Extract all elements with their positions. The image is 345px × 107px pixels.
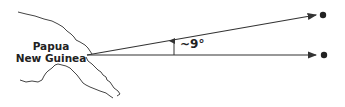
lower-target-dot (321, 52, 327, 58)
upper-target-dot (320, 12, 326, 18)
region-label: Papua New Guinea (12, 40, 90, 64)
region-label-line1: Papua (12, 40, 90, 52)
region-label-line2: New Guinea (12, 52, 90, 64)
coastline-south (20, 64, 113, 98)
angle-label: ~9° (180, 37, 204, 51)
coastline-east (86, 57, 120, 96)
